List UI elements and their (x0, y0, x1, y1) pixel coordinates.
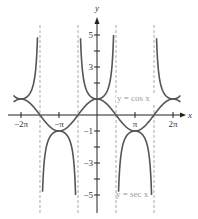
cos-label: y = cos x (117, 93, 150, 103)
secant-branch (119, 131, 152, 195)
x-tick-label: −π (54, 119, 64, 129)
sec-label: y = sec x (116, 189, 149, 199)
cosine-secant-graph: x y −2π−ππ2π53−1−3−5 y = cos xy = sec x (0, 0, 198, 219)
secant-branch (43, 131, 76, 195)
y-tick-label: 5 (89, 30, 94, 40)
y-tick-label: −3 (83, 158, 93, 168)
x-tick-label: −2π (14, 119, 29, 129)
x-axis-label: x (187, 110, 192, 120)
x-tick-label: π (133, 119, 138, 129)
y-axis-label: y (94, 3, 99, 13)
secant-branch (157, 38, 181, 99)
y-tick-label: −5 (83, 190, 93, 200)
x-axis-arrow-icon (180, 113, 186, 118)
y-axis-arrow-icon (95, 17, 100, 24)
secant-branch (14, 37, 38, 99)
y-tick-label: −1 (83, 126, 93, 136)
x-tick-label: 2π (168, 119, 178, 129)
y-tick-label: 3 (89, 62, 94, 72)
